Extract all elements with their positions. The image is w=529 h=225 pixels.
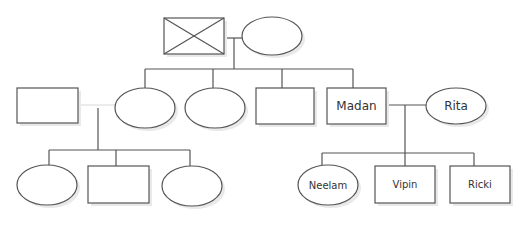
label-rita: Rita [426, 88, 486, 124]
node-left-child-oval-1 [17, 165, 80, 208]
label-ricki: Ricki [450, 166, 510, 203]
node-grandfather-deceased [164, 18, 227, 57]
node-left-child-rect-2 [88, 166, 152, 206]
node-left-child-oval-3 [162, 166, 225, 209]
label-madan: Madan [327, 88, 386, 124]
label-neelam: Neelam [298, 165, 358, 205]
node-child-oval-2 [185, 88, 248, 131]
node-left-parent [17, 88, 81, 126]
node-child-rect-3 [256, 88, 317, 127]
label-vipin: Vipin [375, 166, 435, 203]
node-child-oval-1 [115, 88, 178, 131]
node-grandmother [242, 17, 305, 58]
